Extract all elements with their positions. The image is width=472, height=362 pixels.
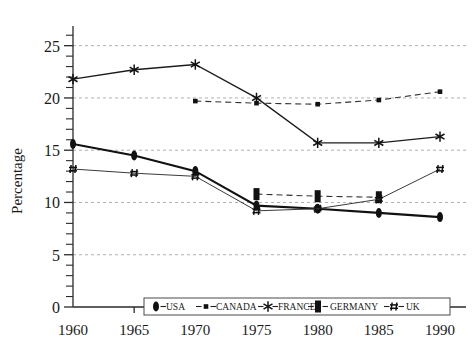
x-tick-label-1970: 1970	[180, 322, 210, 338]
legend-label-germany: GERMANY	[330, 302, 378, 312]
y-tick-label-20: 20	[44, 90, 60, 107]
y-tick-label-0: 0	[52, 299, 60, 316]
marker-germany-1975	[254, 188, 260, 200]
marker-usa-1965	[131, 150, 137, 160]
legend-label-uk: UK	[406, 302, 420, 312]
marker-canada-1990	[438, 89, 443, 94]
x-tick-label-1975: 1975	[242, 322, 272, 338]
marker-usa-1990	[437, 212, 443, 222]
marker-canada-1980	[315, 102, 320, 107]
y-tick-label-10: 10	[44, 194, 60, 211]
legend-label-usa: USA	[166, 302, 185, 312]
marker-usa-1960	[70, 139, 76, 149]
legend-marker-usa	[153, 302, 159, 312]
marker-canada-1985	[377, 98, 382, 103]
y-tick-label-15: 15	[44, 142, 60, 159]
marker-usa-1985	[376, 208, 382, 218]
marker-canada-1970	[193, 99, 198, 104]
x-tick-label-1985: 1985	[364, 322, 394, 338]
x-tick-label-1965: 1965	[119, 322, 149, 338]
chart-container: Percentage 0510152025 196019651970197519…	[0, 0, 472, 362]
legend-label-france: FRANCE	[278, 302, 316, 312]
x-tick-label-1980: 1980	[303, 322, 333, 338]
line-chart: Percentage 0510152025 196019651970197519…	[0, 0, 472, 362]
legend-item-germany[interactable]: GERMANY	[308, 301, 378, 313]
legend-label-canada: CANADA	[216, 302, 257, 312]
x-tick-label-1990: 1990	[425, 322, 455, 338]
legend-marker-germany	[315, 301, 321, 313]
marker-germany-1980	[315, 190, 321, 202]
x-tick-label-1960: 1960	[58, 322, 88, 338]
chart-legend: USACANADAFRANCEGERMANYUK	[144, 298, 450, 315]
legend-marker-canada	[204, 304, 209, 309]
y-axis-label: Percentage	[9, 148, 25, 214]
y-tick-label-25: 25	[44, 38, 60, 55]
y-tick-label-5: 5	[52, 247, 60, 264]
